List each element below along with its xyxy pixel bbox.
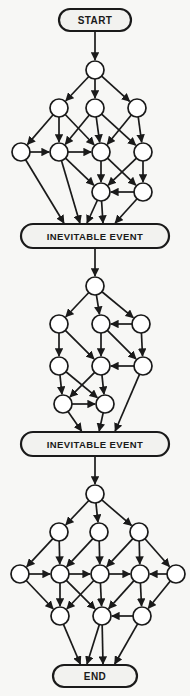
edge xyxy=(27,539,53,567)
graph-node[interactable] xyxy=(132,315,150,333)
graph-node[interactable] xyxy=(86,277,104,295)
graph-node[interactable] xyxy=(11,565,29,583)
edge xyxy=(102,292,133,318)
graph-node[interactable] xyxy=(12,143,30,161)
edge xyxy=(99,541,100,564)
graph-node[interactable] xyxy=(86,99,104,117)
terminal-start[interactable]: START xyxy=(59,9,131,31)
node-layer xyxy=(11,61,185,625)
edge xyxy=(102,76,130,101)
edge xyxy=(115,199,137,223)
edge xyxy=(28,115,54,145)
edge xyxy=(139,541,140,564)
terminal-event1[interactable]: INEVITABLE EVENT xyxy=(21,224,169,248)
edge xyxy=(100,583,101,606)
graph-node[interactable] xyxy=(131,565,149,583)
edge xyxy=(148,581,170,608)
edge xyxy=(109,581,134,609)
graph-node[interactable] xyxy=(92,357,110,375)
graph-node[interactable] xyxy=(134,357,152,375)
edge xyxy=(141,333,142,356)
edge xyxy=(96,295,99,314)
terminal-label: INEVITABLE EVENT xyxy=(47,231,143,242)
graph-node[interactable] xyxy=(86,485,104,503)
graph-node[interactable] xyxy=(130,523,148,541)
edge xyxy=(102,625,103,664)
edge xyxy=(63,624,80,664)
edge xyxy=(138,117,141,142)
graph-node[interactable] xyxy=(92,315,110,333)
edge xyxy=(87,625,99,664)
graph-node[interactable] xyxy=(50,99,68,117)
graph-node[interactable] xyxy=(86,61,104,79)
graph-node[interactable] xyxy=(128,99,146,117)
terminal-event2[interactable]: INEVITABLE EVENT xyxy=(21,432,169,456)
graph-node[interactable] xyxy=(50,357,68,375)
edge xyxy=(96,503,98,522)
graph-node[interactable] xyxy=(90,523,108,541)
edge xyxy=(96,117,99,142)
edge xyxy=(68,412,82,432)
graph-node[interactable] xyxy=(50,143,68,161)
terminal-end[interactable]: END xyxy=(53,665,137,687)
graph-node[interactable] xyxy=(133,607,151,625)
graph-node[interactable] xyxy=(92,143,110,161)
flowchart-diagram: STARTINEVITABLE EVENTINEVITABLE EVENTEND xyxy=(0,0,190,696)
edge xyxy=(66,77,89,101)
diagram-canvas: STARTINEVITABLE EVENTINEVITABLE EVENTEND xyxy=(0,0,190,696)
terminal-label: START xyxy=(78,15,113,26)
terminal-label: END xyxy=(84,671,106,682)
edge xyxy=(66,158,94,185)
edge xyxy=(115,374,139,431)
graph-node[interactable] xyxy=(92,183,110,201)
edge xyxy=(59,541,60,564)
edge xyxy=(66,501,89,525)
edge xyxy=(102,500,132,526)
edge xyxy=(115,624,138,664)
graph-node[interactable] xyxy=(91,565,109,583)
edge xyxy=(26,160,64,223)
edge xyxy=(60,375,62,394)
graph-node[interactable] xyxy=(96,395,114,413)
graph-node[interactable] xyxy=(134,183,152,201)
edge xyxy=(26,581,53,609)
edge xyxy=(66,293,89,317)
graph-node[interactable] xyxy=(51,565,69,583)
edge xyxy=(107,115,131,144)
edge xyxy=(99,413,103,431)
graph-node[interactable] xyxy=(167,565,185,583)
edge xyxy=(145,539,169,567)
graph-node[interactable] xyxy=(50,523,68,541)
edge xyxy=(67,539,93,567)
edge xyxy=(102,375,104,394)
graph-node[interactable] xyxy=(50,315,68,333)
edge xyxy=(102,201,103,223)
graph-node[interactable] xyxy=(54,395,72,413)
terminal-label: INEVITABLE EVENT xyxy=(47,439,143,450)
graph-node[interactable] xyxy=(134,143,152,161)
edge xyxy=(65,330,94,359)
edge xyxy=(140,583,141,606)
edge xyxy=(87,200,97,223)
edge xyxy=(107,539,133,567)
graph-node[interactable] xyxy=(51,607,69,625)
graph-node[interactable] xyxy=(93,607,111,625)
edge xyxy=(107,330,136,359)
